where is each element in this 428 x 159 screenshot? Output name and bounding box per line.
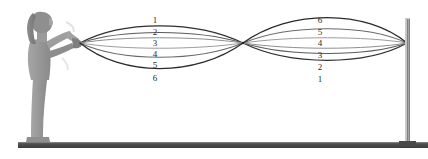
right-label-6: 6 <box>315 16 325 25</box>
left-label-6: 6 <box>150 74 160 83</box>
person-silhouette <box>26 12 86 142</box>
diagram-canvas <box>0 0 428 159</box>
right-label-4: 4 <box>315 39 325 48</box>
right-label-1: 1 <box>315 75 325 84</box>
left-label-2: 2 <box>150 28 160 37</box>
ground-line <box>18 142 428 148</box>
right-label-3: 3 <box>315 51 325 60</box>
left-label-5: 5 <box>150 61 160 70</box>
wave-node <box>242 42 244 44</box>
left-label-4: 4 <box>150 50 160 59</box>
standing-wave-diagram: 1 2 3 4 5 6 6 5 4 3 2 1 <box>0 0 428 159</box>
left-label-1: 1 <box>150 16 160 25</box>
right-label-5: 5 <box>315 28 325 37</box>
left-label-3: 3 <box>150 39 160 48</box>
right-label-2: 2 <box>315 63 325 72</box>
fixed-post <box>399 18 416 146</box>
